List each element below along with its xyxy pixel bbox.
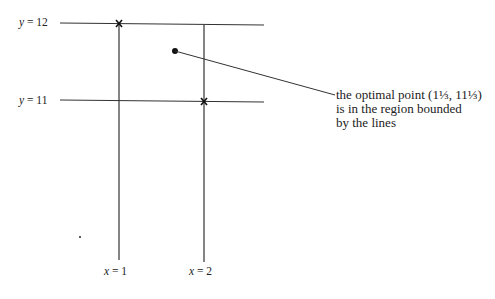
- label-eq: = 11: [24, 94, 47, 106]
- label-x-2: x = 2: [189, 266, 212, 278]
- annotation-line-3: by the lines: [336, 116, 495, 130]
- optimal-point-annotation: the optimal point (1⅓, 11⅓) is in the re…: [336, 88, 495, 130]
- label-eq: = 2: [194, 265, 212, 277]
- label-eq: = 12: [24, 16, 48, 28]
- annotation-leader-line: [175, 51, 335, 95]
- label-x-1: x = 1: [104, 266, 127, 278]
- line-y-11: [60, 100, 264, 102]
- annotation-line-1: the optimal point (1⅓, 11⅓): [336, 88, 495, 102]
- diagram-canvas: [0, 0, 495, 299]
- label-y-11: y = 11: [19, 95, 47, 107]
- line-y-12: [60, 23, 264, 25]
- stray-dot: [79, 236, 81, 238]
- label-eq: = 1: [109, 265, 127, 277]
- label-y-12: y = 12: [19, 17, 48, 29]
- annotation-line-2: is in the region bounded: [336, 102, 495, 116]
